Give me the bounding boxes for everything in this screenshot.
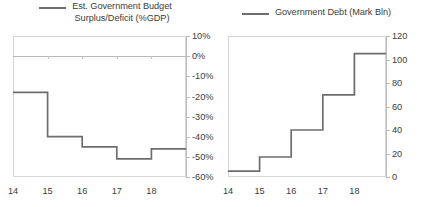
dual-chart-figure: Est. Government Budget Surplus/Deficit (…	[0, 0, 422, 207]
ytick-label-debt-100: 100	[392, 55, 407, 65]
series-line-government-debt	[228, 36, 386, 177]
plot-area-budget-balance	[13, 36, 186, 177]
ytick-mark-debt-0	[386, 177, 390, 178]
ytick-mark-debt-60	[386, 107, 390, 108]
xtick-label-debt-16: 16	[281, 186, 301, 196]
ytick-mark-budget-n30	[186, 117, 190, 118]
chart-panel-government-debt: Government Debt (Mark Bln) 120 100 80 60…	[211, 0, 422, 207]
ytick-label-debt-60: 60	[392, 102, 402, 112]
ytick-mark-budget-n10	[186, 76, 190, 77]
legend-line-swatch-debt	[242, 13, 269, 15]
ytick-mark-debt-100	[386, 60, 390, 61]
xtick-label-debt-14: 14	[218, 186, 238, 196]
xtick-label-debt-15: 15	[250, 186, 270, 196]
ytick-mark-budget-n20	[186, 97, 190, 98]
xtick-label-budget-17: 17	[107, 186, 127, 196]
ytick-mark-budget-10	[186, 36, 190, 37]
legend-label-budget-line1: Est. Government Budget	[72, 1, 172, 13]
ytick-mark-debt-40	[386, 130, 390, 131]
ytick-label-debt-20: 20	[392, 149, 402, 159]
legend-label-budget-line2: Surplus/Deficit (%GDP)	[72, 13, 172, 25]
legend-label-budget: Est. Government Budget Surplus/Deficit (…	[72, 1, 172, 24]
ytick-mark-budget-n60	[186, 177, 190, 178]
ytick-label-debt-80: 80	[392, 78, 402, 88]
xtick-label-budget-15: 15	[38, 186, 58, 196]
ytick-label-budget-10: 10%	[192, 31, 210, 41]
ytick-label-debt-40: 40	[392, 125, 402, 135]
plot-area-government-debt	[228, 36, 386, 177]
legend-budget-balance: Est. Government Budget Surplus/Deficit (…	[0, 1, 211, 24]
xtick-label-debt-17: 17	[313, 186, 333, 196]
xtick-label-budget-16: 16	[72, 186, 92, 196]
ytick-label-budget-0: 0%	[192, 51, 205, 61]
ytick-mark-debt-120	[386, 36, 390, 37]
legend-line-swatch-budget	[39, 7, 66, 9]
chart-panel-budget-balance: Est. Government Budget Surplus/Deficit (…	[0, 0, 211, 207]
series-line-budget-balance	[13, 36, 186, 177]
xtick-label-budget-14: 14	[3, 186, 23, 196]
xtick-label-debt-18: 18	[344, 186, 364, 196]
ytick-mark-debt-80	[386, 83, 390, 84]
xtick-label-budget-18: 18	[141, 186, 161, 196]
legend-government-debt: Government Debt (Mark Bln)	[211, 7, 422, 19]
legend-label-debt: Government Debt (Mark Bln)	[275, 7, 391, 19]
ytick-label-debt-0: 0	[392, 172, 397, 182]
ytick-mark-budget-n50	[186, 157, 190, 158]
ytick-mark-budget-n40	[186, 137, 190, 138]
ytick-label-debt-120: 120	[392, 31, 407, 41]
legend-label-debt-line1: Government Debt (Mark Bln)	[275, 7, 391, 19]
ytick-mark-debt-20	[386, 154, 390, 155]
ytick-mark-budget-0	[186, 56, 190, 57]
series-path-debt	[228, 54, 386, 172]
series-path-budget	[13, 92, 186, 158]
